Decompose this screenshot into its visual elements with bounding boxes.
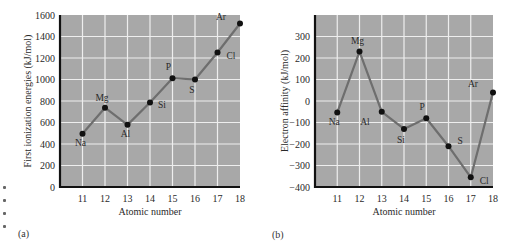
element-label: Si: [158, 100, 166, 110]
charts-canvas: 0200400600800100012001400160011121314151…: [0, 0, 511, 250]
y-tick-label: 400: [40, 139, 55, 150]
data-point-marker: [379, 109, 385, 115]
x-axis-label: Atomic number: [118, 206, 182, 217]
element-label: P: [420, 102, 425, 112]
element-label: Mg: [351, 36, 364, 46]
data-point-marker: [334, 109, 340, 115]
element-label: Na: [329, 117, 341, 127]
y-tick-label: 0: [50, 182, 55, 193]
element-label: Mg: [95, 93, 108, 103]
element-label: Na: [75, 138, 87, 148]
y-axis-label: Electron affinity (kJ/mol): [279, 50, 291, 152]
x-tick-label: 13: [123, 193, 133, 204]
data-point-marker: [125, 122, 131, 128]
y-tick-label: 800: [40, 96, 55, 107]
panel-label-a: (a): [18, 228, 29, 239]
data-point-marker: [468, 174, 474, 180]
y-tick-label: 1600: [35, 10, 55, 21]
y-tick-label: 200: [40, 160, 55, 171]
x-tick-label: 16: [444, 193, 454, 204]
y-tick-label: 0: [305, 96, 310, 107]
y-tick-label: 100: [295, 74, 310, 85]
element-label: Cl: [480, 176, 489, 186]
element-label: Al: [121, 129, 131, 139]
x-tick-label: 12: [100, 193, 110, 204]
element-label: Si: [397, 135, 405, 145]
x-tick-label: 14: [145, 193, 155, 204]
data-point-marker: [170, 75, 176, 81]
y-axis-label: First ionization energies (kJ/mol): [22, 35, 34, 168]
element-label: Cl: [227, 51, 236, 61]
x-tick-label: 17: [466, 193, 476, 204]
data-point-marker: [490, 89, 496, 95]
data-point-marker: [215, 50, 221, 56]
element-label: P: [166, 62, 171, 72]
data-point-marker: [357, 49, 363, 55]
y-tick-label: 1000: [35, 74, 55, 85]
x-tick-label: 18: [488, 193, 498, 204]
data-point-marker: [192, 77, 198, 83]
element-label: S: [189, 85, 194, 95]
x-tick-label: 15: [421, 193, 431, 204]
y-tick-label: −300: [289, 160, 310, 171]
element-label: Ar: [468, 79, 479, 89]
y-tick-label: −400: [289, 182, 310, 193]
x-tick-label: 11: [332, 193, 342, 204]
x-tick-label: 11: [78, 193, 88, 204]
y-tick-label: 600: [40, 117, 55, 128]
x-tick-label: 16: [190, 193, 200, 204]
x-tick-label: 13: [377, 193, 387, 204]
y-tick-label: −100: [289, 117, 310, 128]
x-tick-label: 15: [168, 193, 178, 204]
element-label: Al: [360, 117, 370, 127]
y-tick-label: 200: [295, 53, 310, 64]
x-tick-label: 14: [399, 193, 409, 204]
x-axis-label: Atomic number: [372, 206, 436, 217]
x-tick-label: 12: [355, 193, 365, 204]
y-tick-label: 1400: [35, 31, 55, 42]
data-point-marker: [423, 115, 429, 121]
x-tick-label: 18: [235, 193, 245, 204]
cropped-caption-fragment: [2, 186, 8, 244]
data-point-marker: [80, 131, 86, 137]
panel-label-b: (b): [272, 229, 284, 240]
data-point-marker: [237, 20, 243, 26]
data-point-marker: [102, 105, 108, 111]
y-tick-label: 300: [295, 31, 310, 42]
data-point-marker: [401, 126, 407, 132]
figure: 0200400600800100012001400160011121314151…: [0, 0, 511, 250]
x-tick-label: 17: [213, 193, 223, 204]
y-tick-label: −200: [289, 139, 310, 150]
data-point-marker: [147, 100, 153, 106]
element-label: S: [458, 136, 463, 146]
data-point-marker: [446, 143, 452, 149]
y-tick-label: 1200: [35, 53, 55, 64]
element-label: Ar: [216, 12, 227, 22]
